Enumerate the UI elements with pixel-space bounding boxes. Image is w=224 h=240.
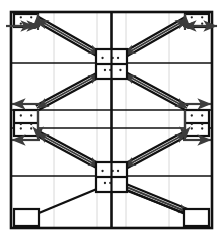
base-right-plate-plate — [184, 209, 209, 226]
top-right-gusset-bolt-3 — [201, 23, 203, 25]
mid-right-gusset-bolt-1 — [201, 114, 203, 116]
center-lower-gusset — [96, 162, 127, 192]
mid-left-gusset-bolt-0 — [20, 114, 22, 116]
mid-left-gusset — [14, 110, 38, 136]
base-left-plate-plate — [14, 209, 39, 226]
center-upper-gusset-bolt-5 — [119, 69, 121, 71]
mid-right-gusset — [185, 110, 209, 136]
center-upper-gusset-bolt-0 — [101, 57, 103, 59]
base-left-plate — [14, 209, 39, 226]
center-lower-gusset-bolt-4 — [109, 182, 111, 184]
mid-right-gusset-bolt-2 — [191, 123, 193, 125]
top-left-gusset-bolt-0 — [20, 16, 22, 18]
top-right-gusset-bolt-0 — [191, 16, 193, 18]
mid-right-gusset-bolt-5 — [201, 127, 203, 129]
center-lower-gusset-bolt-1 — [112, 170, 114, 172]
mid-right-gusset-bolt-3 — [201, 123, 203, 125]
center-upper-gusset-bolt-4 — [109, 69, 111, 71]
top-left-gusset-bolt-1 — [30, 16, 32, 18]
center-lower-gusset-bolt-0 — [101, 170, 103, 172]
mid-left-gusset-bolt-4 — [20, 127, 22, 129]
mid-left-gusset-bolt-2 — [20, 123, 22, 125]
diagram-canvas — [0, 0, 224, 240]
center-upper-gusset-bolt-2 — [117, 57, 119, 59]
center-upper-gusset-bolt-3 — [104, 69, 106, 71]
top-right-gusset-bolt-1 — [201, 16, 203, 18]
mid-right-gusset-bolt-0 — [191, 114, 193, 116]
center-lower-gusset-bolt-2 — [117, 170, 119, 172]
center-upper-gusset-bolt-1 — [112, 57, 114, 59]
center-lower-gusset-bolt-3 — [104, 182, 106, 184]
base-right-plate — [184, 209, 209, 226]
braced-frame-diagram — [0, 0, 224, 240]
mid-right-gusset-bolt-4 — [191, 127, 193, 129]
mid-left-gusset-bolt-3 — [30, 123, 32, 125]
top-left-gusset-bolt-2 — [20, 23, 22, 25]
mid-left-gusset-bolt-1 — [30, 114, 32, 116]
mid-left-gusset-bolt-5 — [30, 127, 32, 129]
center-upper-gusset — [96, 49, 127, 79]
